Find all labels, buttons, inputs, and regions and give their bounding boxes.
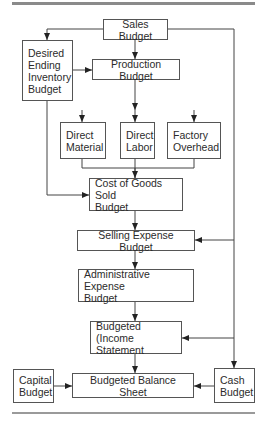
node-label: Direct Labor (126, 129, 153, 153)
node-labor: Direct Labor (120, 122, 155, 159)
node-label: Selling Expense Budget (83, 229, 189, 253)
node-label: Budgeted (Income Statement (96, 320, 176, 356)
node-cash: Cash Budget (214, 368, 255, 403)
arrowhead-left-icon (195, 237, 202, 243)
node-label: Cost of Goods Sold Budget (95, 177, 177, 213)
node-label: Capital Budget (19, 374, 52, 398)
arrowhead-down-icon (231, 361, 237, 368)
node-label: Factory Overhead (173, 129, 219, 153)
node-balance: Budgeted Balance Sheet (72, 373, 194, 398)
arrowhead-down-icon (132, 366, 138, 373)
node-production: Production Budget (92, 59, 180, 80)
arrowhead-down-icon (44, 33, 50, 40)
connector-overhead-to-cogs (135, 159, 194, 168)
node-deib: Desired Ending Inventory Budget (22, 40, 73, 101)
node-cogs: Cost of Goods Sold Budget (89, 178, 183, 211)
node-label: Administrative Expense Budget (84, 268, 188, 304)
arrowhead-right-icon (85, 67, 92, 73)
node-admin: Administrative Expense Budget (78, 269, 194, 302)
arrowhead-down-icon (79, 115, 85, 122)
node-capital: Capital Budget (13, 369, 54, 403)
node-label: Cash Budget (220, 374, 253, 398)
connector-material-to-cogs (82, 159, 135, 178)
node-income: Budgeted (Income Statement (90, 321, 182, 354)
arrowhead-left-icon (182, 335, 189, 341)
bottom-rule (12, 412, 255, 414)
node-label: Production Budget (98, 58, 174, 82)
node-label: Desired Ending Inventory Budget (28, 47, 71, 95)
node-label: Budgeted Balance Sheet (78, 374, 188, 398)
node-sales: Sales Budget (103, 19, 168, 40)
arrowhead-right-icon (82, 192, 89, 198)
arrowhead-left-icon (194, 383, 201, 389)
arrowhead-right-icon (65, 383, 72, 389)
node-overhead: Factory Overhead (167, 122, 221, 159)
arrowhead-down-icon (191, 115, 197, 122)
arrowhead-down-icon (132, 115, 138, 122)
node-material: Direct Material (60, 122, 106, 159)
arrowhead-down-icon (132, 103, 138, 110)
node-selling: Selling Expense Budget (77, 230, 195, 251)
connector-sales-to-deib (47, 29, 103, 40)
node-label: Direct Material (66, 129, 103, 153)
node-label: Sales Budget (109, 18, 162, 42)
